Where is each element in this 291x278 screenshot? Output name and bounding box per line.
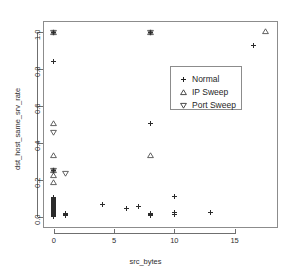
x-axis-tick: [54, 229, 55, 234]
x-axis-tick-label: 0: [48, 237, 60, 245]
x-axis-title: src_bytes: [0, 258, 291, 266]
x-axis-tick: [114, 229, 115, 234]
y-axis-tick-label: 0.4: [34, 141, 42, 151]
legend-item-label: IP Sweep: [192, 88, 228, 97]
plot-panel: [43, 21, 278, 228]
scatter-plot-figure: 0510150.00.20.40.60.81.0 src_bytes dst_h…: [0, 0, 291, 278]
triangle-down-marker-icon: [177, 100, 189, 110]
legend-item-label: Normal: [192, 75, 219, 84]
y-axis-tick-label: 0.0: [34, 214, 42, 224]
x-axis-tick-label: 15: [229, 237, 241, 245]
x-axis-line: [54, 233, 235, 234]
legend-item-port-sweep[interactable]: Port Sweep: [177, 100, 236, 110]
legend-item-ip-sweep[interactable]: IP Sweep: [177, 87, 228, 97]
y-axis-line: [37, 32, 38, 217]
legend-item-label: Port Sweep: [192, 101, 236, 110]
plus-marker-icon: [177, 74, 189, 84]
x-axis-tick: [235, 229, 236, 234]
x-axis-tick-label: 5: [108, 237, 120, 245]
x-axis-tick-label: 10: [168, 237, 180, 245]
y-axis-tick-label: 1.0: [34, 30, 42, 40]
legend: NormalIP SweepPort Sweep: [170, 66, 242, 110]
y-axis-tick-label: 0.2: [34, 178, 42, 188]
triangle-up-marker-icon: [177, 87, 189, 97]
x-axis-tick: [174, 229, 175, 234]
y-axis-tick-label: 0.6: [34, 104, 42, 114]
legend-item-normal[interactable]: Normal: [177, 74, 219, 84]
y-axis-title: dst_host_same_srv_rate: [14, 87, 22, 169]
y-axis-tick-label: 0.8: [34, 67, 42, 77]
